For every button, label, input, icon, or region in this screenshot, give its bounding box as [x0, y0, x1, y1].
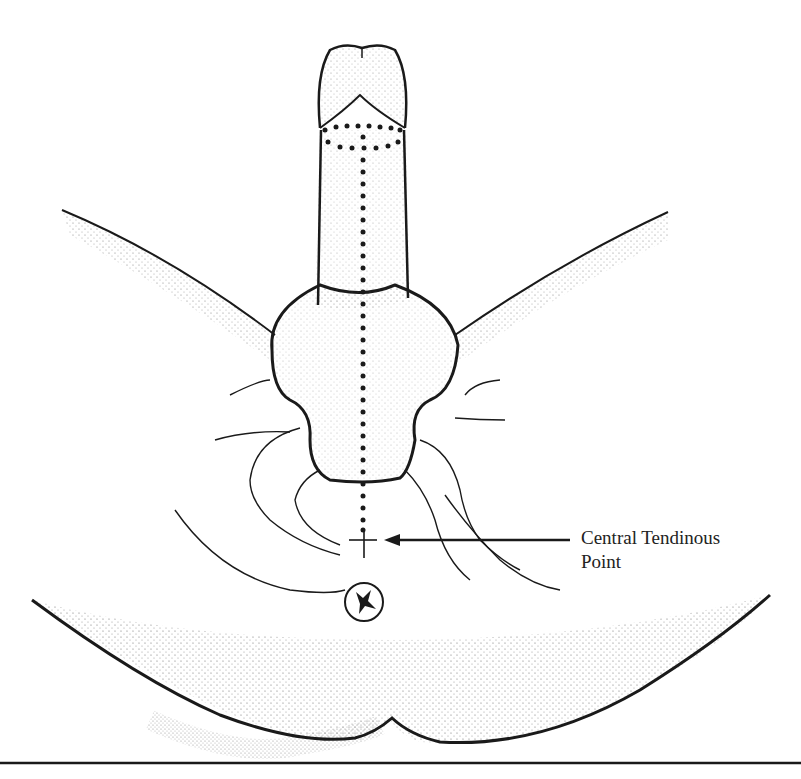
anatomical-diagram — [0, 0, 801, 779]
glans — [319, 45, 407, 128]
label-line-1: Central Tendinous — [581, 526, 720, 550]
anus — [345, 583, 383, 621]
right-thigh — [455, 212, 668, 365]
central-point-marker — [349, 532, 377, 558]
central-tendinous-point-label: Central Tendinous Point — [581, 526, 720, 574]
left-thigh — [62, 210, 275, 360]
buttocks — [32, 595, 770, 749]
label-line-2: Point — [581, 550, 720, 574]
